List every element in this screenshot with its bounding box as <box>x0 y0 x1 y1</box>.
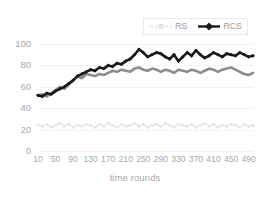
series-marker-rs <box>107 122 109 124</box>
series-marker-rs <box>160 125 162 127</box>
series-marker-rs <box>103 125 105 127</box>
series-marker-rs <box>204 122 206 124</box>
series-line-rs <box>38 123 253 127</box>
series-line-rcs <box>38 49 253 96</box>
series-marker-rs <box>133 122 135 124</box>
legend-swatch-square-icon <box>149 21 173 32</box>
series-marker-rs <box>151 124 153 126</box>
series-marker-rs <box>59 122 61 124</box>
series-marker-rs <box>85 123 87 125</box>
series-marker-rs <box>217 126 219 128</box>
series-marker-rs <box>190 123 192 125</box>
series-marker-rs <box>54 124 56 126</box>
series-marker-rs <box>98 123 100 125</box>
series-marker-rs <box>72 126 74 128</box>
series-rs <box>37 122 254 129</box>
series-marker-rs <box>41 125 43 127</box>
series-marker-rs <box>252 124 254 126</box>
x-tick-label-490: 490 <box>237 154 261 164</box>
series-marker-rs <box>177 123 179 125</box>
series-marker-rs <box>225 125 227 127</box>
x-axis-title: time rounds <box>0 172 270 183</box>
series-marker-rs <box>63 125 65 127</box>
series-marker-rs <box>195 126 197 128</box>
y-tick-label-20: 20 <box>0 125 31 135</box>
y-tick-label-60: 60 <box>0 82 31 92</box>
y-axis-tick-labels: 020406080100 <box>0 44 34 151</box>
series-marker-rs <box>120 123 122 125</box>
series-marker-rs <box>173 126 175 128</box>
series-marker-rs <box>46 123 48 125</box>
plot-area <box>38 44 253 151</box>
series-marker-rs <box>182 124 184 126</box>
gridline-y-0 <box>38 151 253 152</box>
series-marker-rs <box>199 124 201 126</box>
legend-item-rcs[interactable]: RCS <box>197 19 242 34</box>
series-marker-rs <box>208 125 210 127</box>
chart-container: replica utilization 020406080100 1050901… <box>0 0 270 202</box>
legend-item-rs[interactable]: RS <box>149 19 187 34</box>
series-marker-rs <box>164 122 166 124</box>
legend-swatch-diamond-icon <box>197 21 221 32</box>
legend-label-rs: RS <box>175 22 187 31</box>
series-marker-rs <box>155 123 157 125</box>
series-marker-rs <box>94 126 96 128</box>
y-tick-label-40: 40 <box>0 103 31 113</box>
series-marker-rs <box>239 126 241 128</box>
y-tick-label-80: 80 <box>0 60 31 70</box>
x-axis-tick-labels: 105090130170210250290330370410450490 <box>38 154 253 166</box>
legend-label-rcs: RCS <box>223 22 242 31</box>
series-marker-rs <box>76 124 78 126</box>
series-canvas <box>38 44 253 151</box>
series-marker-rs <box>146 126 148 128</box>
series-marker-rs <box>247 125 249 127</box>
series-marker-rs <box>212 123 214 125</box>
series-marker-rs <box>50 126 52 128</box>
series-marker-rs <box>142 123 144 125</box>
series-marker-rs <box>168 124 170 126</box>
series-marker-rs <box>116 126 118 128</box>
series-marker-rs <box>89 124 91 126</box>
series-marker-rs <box>221 124 223 126</box>
series-marker-rs <box>129 124 131 126</box>
series-marker-rs <box>111 124 113 126</box>
series-marker-rs <box>81 125 83 127</box>
series-marker-rs <box>243 123 245 125</box>
series-rcs <box>36 47 255 98</box>
series-marker-rs <box>234 124 236 126</box>
series-marker-rs <box>186 125 188 127</box>
series-marker-rs <box>230 123 232 125</box>
series-marker-rs <box>138 125 140 127</box>
series-marker-rs <box>68 123 70 125</box>
y-tick-label-100: 100 <box>0 39 31 49</box>
series-marker-rs <box>37 124 39 126</box>
chart-legend[interactable]: RSRCS <box>143 18 248 35</box>
series-marker-rs <box>125 125 127 127</box>
